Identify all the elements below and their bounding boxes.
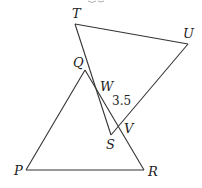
label-q: Q [73, 55, 84, 70]
triangle-pqr [26, 70, 144, 170]
side-pq [26, 70, 85, 170]
side-us [111, 44, 188, 135]
label-w: W [100, 79, 115, 94]
label-v: V [124, 121, 135, 136]
side-qr [85, 70, 144, 170]
label-t: T [72, 6, 82, 21]
label-r: R [147, 164, 158, 179]
label-u: U [183, 26, 195, 41]
measurement-3-5: 3.5 [112, 94, 131, 108]
cropped-heading-fragment [88, 1, 104, 3]
label-s: S [106, 137, 115, 152]
figure-tuvs [75, 24, 188, 135]
side-tu [75, 24, 188, 44]
geometry-diagram: T U Q W 3.5 V S P R [0, 0, 202, 188]
label-p: P [13, 163, 23, 178]
